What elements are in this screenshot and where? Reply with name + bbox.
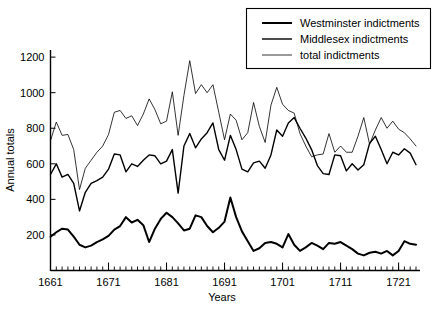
y-tick-label: 600 [26,158,44,170]
x-tick-label: 1701 [270,276,294,288]
x-tick-label: 1711 [329,276,353,288]
y-tick-label: 1200 [20,51,44,63]
x-tick-label: 1681 [154,276,178,288]
x-tick-label: 1661 [38,276,62,288]
x-axis-title: Years [208,291,236,303]
chart-legend: Westminster indictmentsMiddlesex indictm… [247,9,431,69]
x-tick-label: 1671 [96,276,120,288]
indictments-line-chart: 20040060080010001200 Annual totals 16611… [0,0,437,314]
x-tick-label: 1691 [212,276,236,288]
y-tick-label: 400 [26,193,44,205]
legend-label-1: Middlesex indictments [300,33,409,45]
legend-label-2: total indictments [300,49,380,61]
legend-label-0: Westminster indictments [300,17,420,29]
y-axis-title: Annual totals [4,128,16,192]
y-tick-label: 200 [26,229,44,241]
y-tick-label: 800 [26,122,44,134]
x-tick-label: 1721 [386,276,410,288]
y-tick-label: 1000 [20,87,44,99]
chart-figure: 20040060080010001200 Annual totals 16611… [0,0,437,314]
